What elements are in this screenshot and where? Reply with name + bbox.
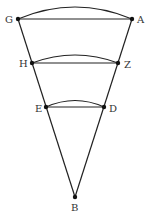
label-E: E [35, 103, 42, 114]
geometric-diagram: G A H Z E D B [0, 0, 148, 219]
arc-G-A [18, 7, 132, 19]
label-Z: Z [124, 59, 131, 70]
arc-H-Z [32, 55, 118, 63]
point-A [130, 17, 134, 21]
label-H: H [19, 58, 28, 69]
label-A: A [136, 14, 145, 25]
point-D [102, 105, 106, 109]
label-B: B [71, 202, 78, 213]
arc-E-D [46, 101, 104, 108]
point-G [16, 17, 20, 21]
point-Z [116, 61, 120, 65]
point-H [30, 61, 34, 65]
point-B [73, 195, 77, 199]
label-D: D [109, 103, 117, 114]
point-E [44, 105, 48, 109]
label-G: G [5, 14, 13, 25]
